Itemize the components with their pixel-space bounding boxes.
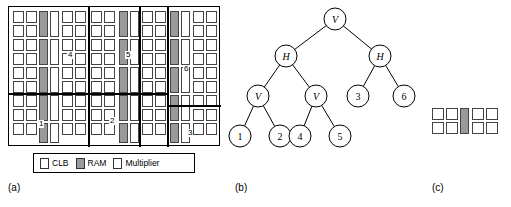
clb-tile bbox=[193, 109, 204, 121]
clb-tile bbox=[193, 53, 204, 65]
tree-leaf-1: 1 bbox=[229, 125, 251, 147]
slicing-tree-panel: V H H V V 3 6 1 bbox=[228, 4, 388, 154]
multiplier-tile bbox=[50, 67, 59, 93]
clb-tile bbox=[104, 25, 115, 37]
clb-tile bbox=[75, 25, 86, 37]
ram-tile bbox=[119, 95, 128, 121]
ram-tile bbox=[170, 123, 179, 143]
multiplier-tile bbox=[50, 39, 59, 65]
clb-tile bbox=[142, 39, 153, 51]
clb-tile bbox=[26, 95, 37, 107]
clb-tile bbox=[155, 11, 166, 23]
region-label-3: 3 bbox=[187, 129, 193, 137]
multiplier-swatch-icon bbox=[113, 158, 122, 169]
clb-tile bbox=[446, 108, 458, 120]
ram-tile bbox=[119, 123, 128, 143]
tree-node-v-mid: V bbox=[305, 85, 327, 107]
tree-node-label: 3 bbox=[356, 91, 361, 102]
ram-tile bbox=[39, 11, 48, 37]
clb-tile bbox=[13, 11, 24, 23]
clb-tile bbox=[91, 123, 102, 135]
multiplier-tile bbox=[50, 11, 59, 37]
multiplier-tile bbox=[181, 39, 190, 65]
tree-leaf-2: 2 bbox=[269, 125, 291, 147]
tree-node-label: 1 bbox=[238, 131, 243, 142]
clb-tile bbox=[26, 109, 37, 121]
clb-tile bbox=[13, 53, 24, 65]
clb-tile bbox=[13, 25, 24, 37]
clb-tile bbox=[486, 122, 498, 134]
resource-block-panel bbox=[432, 108, 492, 150]
clb-tile bbox=[26, 11, 37, 23]
clb-tile bbox=[75, 95, 86, 107]
clb-tile bbox=[13, 67, 24, 79]
clb-tile bbox=[26, 81, 37, 93]
ram-tile bbox=[460, 108, 469, 134]
clb-tile bbox=[193, 25, 204, 37]
clb-tile bbox=[486, 108, 498, 120]
clb-tile bbox=[155, 25, 166, 37]
region-label-1: 1 bbox=[38, 120, 44, 128]
clb-tile bbox=[91, 95, 102, 107]
region-label-5: 5 bbox=[125, 51, 131, 59]
caption-c: (c) bbox=[432, 182, 444, 193]
clb-tile bbox=[193, 81, 204, 93]
clb-tile bbox=[62, 81, 73, 93]
clb-tile bbox=[26, 25, 37, 37]
clb-tile bbox=[13, 123, 24, 135]
ram-swatch-icon bbox=[76, 158, 85, 169]
clb-tile bbox=[26, 53, 37, 65]
clb-tile bbox=[142, 109, 153, 121]
clb-tile bbox=[472, 108, 484, 120]
multiplier-tile bbox=[50, 95, 59, 121]
clb-tile bbox=[206, 123, 217, 135]
clb-tile bbox=[91, 67, 102, 79]
legend-item-multiplier: Multiplier bbox=[113, 158, 159, 169]
clb-tile bbox=[75, 67, 86, 79]
tree-leaf-6: 6 bbox=[393, 85, 415, 107]
clb-tile bbox=[206, 53, 217, 65]
multiplier-tile bbox=[130, 67, 139, 93]
clb-tile bbox=[142, 81, 153, 93]
clb-tile bbox=[104, 95, 115, 107]
clb-tile bbox=[142, 123, 153, 135]
clb-tile bbox=[13, 81, 24, 93]
clb-tile bbox=[206, 67, 217, 79]
ram-tile bbox=[39, 67, 48, 93]
clb-tile bbox=[91, 53, 102, 65]
clb-tile bbox=[62, 123, 73, 135]
legend-item-ram: RAM bbox=[76, 158, 107, 169]
clb-tile bbox=[91, 11, 102, 23]
multiplier-tile bbox=[130, 123, 139, 143]
clb-tile bbox=[155, 67, 166, 79]
region-label-4: 4 bbox=[67, 51, 73, 59]
clb-tile bbox=[26, 67, 37, 79]
tree-node-v-left: V bbox=[247, 85, 269, 107]
ram-tile bbox=[170, 95, 179, 121]
clb-tile bbox=[193, 11, 204, 23]
clb-tile bbox=[432, 122, 444, 134]
tree-leaf-3: 3 bbox=[347, 85, 369, 107]
slicing-tree-svg: V H H V V 3 6 1 bbox=[228, 4, 428, 154]
clb-tile bbox=[446, 122, 458, 134]
partition-line-horizontal bbox=[167, 105, 221, 107]
clb-tile bbox=[142, 95, 153, 107]
tree-leaf-4: 4 bbox=[289, 125, 311, 147]
clb-tile bbox=[155, 39, 166, 51]
clb-tile bbox=[75, 39, 86, 51]
tree-node-root-v: V bbox=[324, 8, 346, 30]
tree-node-label: 5 bbox=[338, 131, 343, 142]
partition-line-vertical bbox=[139, 7, 141, 147]
ram-tile bbox=[170, 67, 179, 93]
tree-node-h-right: H bbox=[369, 45, 391, 67]
clb-tile bbox=[91, 39, 102, 51]
clb-tile bbox=[142, 11, 153, 23]
legend-label-ram: RAM bbox=[88, 158, 107, 168]
clb-tile bbox=[13, 109, 24, 121]
clb-tile bbox=[432, 108, 444, 120]
tree-node-label: 6 bbox=[402, 91, 407, 102]
clb-tile bbox=[62, 67, 73, 79]
clb-tile bbox=[155, 81, 166, 93]
partition-line-vertical bbox=[167, 7, 169, 147]
tree-node-label: H bbox=[281, 51, 290, 62]
